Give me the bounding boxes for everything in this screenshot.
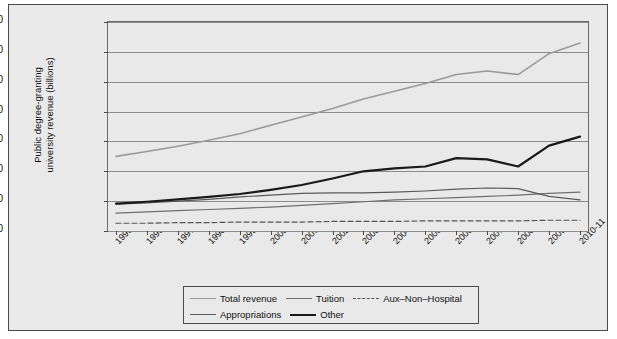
x-axis-tick-mark	[302, 231, 303, 235]
y-axis-tick-label: $200	[0, 104, 3, 115]
y-axis-tick-label: $50	[0, 193, 3, 204]
y-axis-tick-label: $0	[0, 223, 3, 234]
x-axis-tick-mark	[580, 231, 581, 235]
legend-item[interactable]: Aux–Non–Hospital	[353, 293, 462, 304]
legend-label: Appropriations	[220, 309, 281, 320]
legend-swatch	[286, 293, 312, 303]
x-axis-tick-mark	[333, 231, 334, 235]
chart-figure: Public degree-granting university revenu…	[8, 4, 608, 331]
x-axis-tick-mark	[487, 231, 488, 235]
legend-row-2: AppropriationsOther	[190, 306, 472, 322]
series-line	[116, 137, 580, 204]
y-axis-title: Public degree-granting university revenu…	[32, 10, 56, 220]
x-axis-tick-mark	[240, 231, 241, 235]
y-axis-tick-label: $350	[0, 14, 3, 25]
legend-label: Aux–Non–Hospital	[383, 293, 462, 304]
x-axis-tick-mark	[178, 231, 179, 235]
x-axis-tick-mark	[394, 231, 395, 235]
x-axis-tick-mark	[116, 231, 117, 235]
y-axis-tick-label: $100	[0, 163, 3, 174]
series-lines	[108, 22, 588, 231]
x-axis-tick-mark	[518, 231, 519, 235]
series-line	[116, 220, 580, 223]
y-axis-tick-label: $300	[0, 44, 3, 55]
legend-swatch	[290, 309, 316, 319]
plot-area	[107, 21, 589, 232]
legend-item[interactable]: Other	[290, 309, 344, 320]
x-axis-tick-mark	[209, 231, 210, 235]
x-axis-tick-mark	[456, 231, 457, 235]
legend-label: Total revenue	[220, 293, 277, 304]
legend-item[interactable]: Appropriations	[190, 309, 281, 320]
y-axis-tick-label: $150	[0, 133, 3, 144]
legend-item[interactable]: Tuition	[286, 293, 344, 304]
y-axis-tick-label: $250	[0, 74, 3, 85]
series-line	[116, 43, 580, 156]
y-axis-tick-mark	[104, 231, 108, 232]
series-line	[116, 192, 580, 213]
x-axis-tick-mark	[271, 231, 272, 235]
x-axis-tick-mark	[549, 231, 550, 235]
x-axis-tick-mark	[147, 231, 148, 235]
legend-label: Tuition	[316, 293, 344, 304]
chart-legend: Total revenueTuitionAux–Non–Hospital App…	[183, 286, 479, 324]
legend-item[interactable]: Total revenue	[190, 293, 277, 304]
legend-row-1: Total revenueTuitionAux–Non–Hospital	[190, 290, 472, 306]
x-axis-tick-mark	[425, 231, 426, 235]
legend-label: Other	[320, 309, 344, 320]
y-axis-title-line2: university revenue (billions)	[44, 10, 56, 220]
legend-swatch	[353, 293, 379, 303]
gridline	[108, 231, 588, 232]
x-axis-tick-mark	[363, 231, 364, 235]
y-axis-title-line1: Public degree-granting	[32, 10, 44, 220]
legend-swatch	[190, 293, 216, 303]
legend-swatch	[190, 309, 216, 319]
